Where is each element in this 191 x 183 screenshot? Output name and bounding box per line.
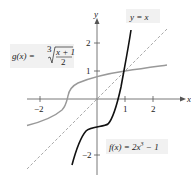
- label-f: f(x) = 2x3 − 1: [109, 141, 159, 152]
- tick-y-2: 2: [86, 38, 91, 48]
- label-g-lhs: g(x) =: [12, 51, 35, 61]
- tick-y-1: 1: [86, 66, 91, 76]
- y-axis-label: y: [93, 9, 98, 19]
- label-y-equals-x: y = x: [129, 12, 149, 22]
- label-g-index: 3: [47, 44, 52, 54]
- tick-x-neg2: −2: [34, 104, 44, 114]
- tick-y-neg2: −2: [82, 150, 92, 160]
- label-g-den: 2: [61, 57, 66, 67]
- graph: x y −2 1 2 2 1 −2 y = x g(x) = 3 x + 1 2…: [0, 0, 191, 183]
- x-axis-label: x: [186, 94, 191, 104]
- tick-x-1: 1: [123, 104, 128, 114]
- tick-x-2: 2: [151, 104, 156, 114]
- x-axis-arrow-icon: [180, 97, 186, 102]
- label-g-num: x + 1: [55, 47, 75, 57]
